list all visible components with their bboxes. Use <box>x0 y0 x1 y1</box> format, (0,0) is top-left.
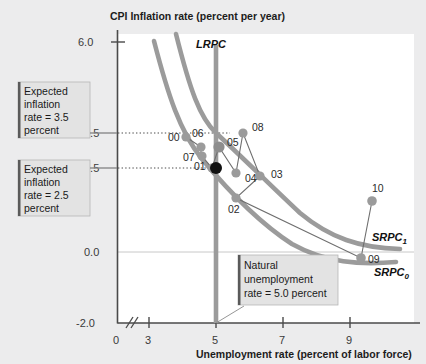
data-point-00[interactable] <box>181 132 190 141</box>
callout-natural-line-2: unemployment <box>244 273 313 285</box>
callout-25-line-2: inflation <box>24 176 60 188</box>
x-axis-title: Unemployment rate (percent of labor forc… <box>196 348 412 360</box>
ytick-label-60: 6.0 <box>78 36 93 48</box>
curve-label-lrpc: LRPC <box>196 38 227 50</box>
xtick-label-9: 9 <box>346 334 352 346</box>
callout-25-accent-bar <box>18 160 21 216</box>
srpc1-sub: 1 <box>403 237 408 246</box>
callout-35-accent-bar <box>18 82 21 138</box>
point-label-02: 02 <box>228 203 240 215</box>
srpc1-base: SRPC <box>372 231 404 243</box>
callout-natural-line-1: Natural <box>244 259 278 271</box>
ytick-label-m20: -2.0 <box>76 317 95 329</box>
chart-svg: 00 01 02 03 04 05 06 07 08 09 10 LRPC SR… <box>0 0 426 364</box>
data-point-09[interactable] <box>356 253 366 263</box>
callout-expected-inflation-25: Expected inflation rate = 2.5 percent <box>18 160 107 216</box>
point-label-08: 08 <box>252 121 264 133</box>
srpc0-base: SRPC <box>374 266 406 278</box>
xtick-label-0: 0 <box>113 334 119 346</box>
point-label-03: 03 <box>271 168 283 180</box>
data-point-08[interactable] <box>238 128 247 137</box>
point-label-00: 00 <box>168 131 180 143</box>
natural-rate-point[interactable] <box>210 162 222 174</box>
xtick-label-7: 7 <box>279 334 285 346</box>
phillips-curve-figure: 00 01 02 03 04 05 06 07 08 09 10 LRPC SR… <box>0 0 426 364</box>
callout-25-line-1: Expected <box>24 163 68 175</box>
callout-35-line-2: inflation <box>24 98 60 110</box>
data-point-02[interactable] <box>231 193 240 202</box>
callout-35-line-4: percent <box>24 124 59 136</box>
data-point-10[interactable] <box>367 196 377 206</box>
point-label-07: 07 <box>183 151 195 163</box>
point-label-01: 01 <box>194 160 206 172</box>
callout-35-line-3: rate = 3.5 <box>24 111 69 123</box>
callout-natural-accent-bar <box>238 255 241 305</box>
callout-natural-line-3: rate = 5.0 percent <box>244 287 327 299</box>
chart-title: CPI Inflation rate (percent per year) <box>110 10 285 22</box>
point-label-10: 10 <box>372 182 384 194</box>
srpc0-sub: 0 <box>405 272 410 281</box>
point-label-05: 05 <box>227 136 239 148</box>
data-point-04[interactable] <box>231 168 240 177</box>
xtick-label-5: 5 <box>212 334 218 346</box>
callout-35-line-1: Expected <box>24 85 68 97</box>
xtick-label-3: 3 <box>145 334 151 346</box>
point-label-04: 04 <box>245 172 257 184</box>
data-point-06[interactable] <box>196 142 205 151</box>
callout-25-line-4: percent <box>24 202 59 214</box>
callout-25-line-3: rate = 2.5 <box>24 189 69 201</box>
data-point-03[interactable] <box>255 171 264 180</box>
ytick-label-00: 0.0 <box>84 246 99 258</box>
point-label-06: 06 <box>192 127 204 139</box>
point-label-09: 09 <box>368 253 380 265</box>
data-point-05[interactable] <box>213 141 224 152</box>
